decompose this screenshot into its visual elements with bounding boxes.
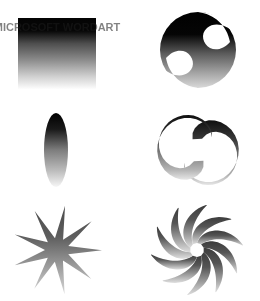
- square-overlay-text: MICROSOFT WORDART: [0, 21, 121, 33]
- shape-gradient-ellipse: [44, 113, 68, 187]
- shape-svg-root: MICROSOFT WORDART: [0, 0, 260, 301]
- shape-clawed-disc: [155, 8, 243, 96]
- shape-canvas: MICROSOFT WORDART Gradient Shapes Sample…: [0, 0, 260, 301]
